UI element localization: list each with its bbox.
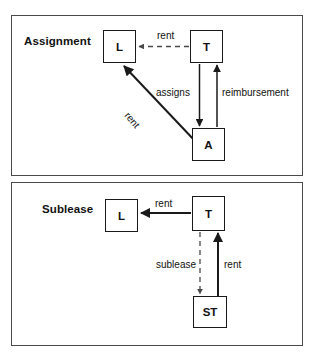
edge-label-assignment-assigns: assigns bbox=[156, 87, 190, 98]
node-sublease-tenant[interactable]: T bbox=[192, 196, 225, 231]
node-sublease-subtenant[interactable]: ST bbox=[193, 296, 227, 328]
node-assignment-landlord[interactable]: L bbox=[103, 30, 136, 63]
edge-label-sublease-rent-vertical: rent bbox=[224, 259, 241, 270]
node-sublease-landlord[interactable]: L bbox=[105, 199, 138, 232]
edge-label-assignment-rent-top: rent bbox=[157, 30, 174, 41]
node-assignment-assignee[interactable]: A bbox=[192, 128, 225, 161]
edge-label-assignment-reimbursement: reimbursement bbox=[222, 87, 289, 98]
edge-label-sublease-sublease: sublease bbox=[156, 259, 196, 270]
node-assignment-tenant[interactable]: T bbox=[190, 30, 223, 63]
panel-title-sublease: Sublease bbox=[42, 203, 93, 215]
panel-title-assignment: Assignment bbox=[24, 35, 91, 47]
edge-label-sublease-rent-top: rent bbox=[155, 198, 172, 209]
diagram-canvas: Assignment L T A rent assigns reimbursem… bbox=[0, 0, 318, 359]
